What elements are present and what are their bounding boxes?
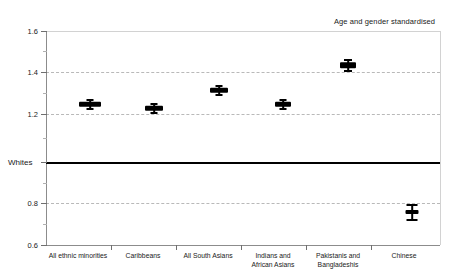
data-point-all-ethnic-minorities [78, 104, 102, 105]
error-bar-cap-upper [280, 99, 287, 101]
ytick-minor-1-3 [43, 93, 47, 94]
ylabel-0-6: 0.6 [28, 241, 38, 250]
data-point-caribbeans [143, 108, 165, 109]
marker-box [210, 88, 228, 93]
ytick-1-2 [41, 114, 47, 115]
xsep-4 [306, 245, 307, 250]
chart-annotation: Age and gender standardised [334, 17, 435, 26]
ytick-1-6 [41, 31, 47, 32]
error-bar-cap-upper [344, 59, 352, 61]
ytick-whites [41, 162, 47, 163]
xsep-5 [371, 245, 372, 250]
xsep-3 [241, 245, 242, 250]
ylabel-whites: Whites [8, 158, 32, 167]
marker-box [275, 102, 291, 107]
ytick-0-6 [41, 245, 47, 246]
gridline-0-8 [46, 203, 440, 204]
marker-box [406, 210, 419, 214]
ytick-minor-1-5 [43, 51, 47, 52]
axis-bottom-line [46, 245, 440, 246]
data-point-chinese [404, 212, 420, 213]
xlabel-chinese: Chinese [359, 252, 449, 261]
chart-container: Age and gender standardised 1.6 1.4 1.2 … [0, 0, 453, 273]
ytick-minor-0-7 [43, 224, 47, 225]
axis-right-line [440, 31, 441, 245]
data-point-all-south-asians [208, 90, 230, 91]
marker-box [145, 106, 163, 111]
ylabel-1-4: 1.4 [28, 68, 38, 77]
error-bar-cap-lower [407, 219, 418, 221]
error-bar-cap-lower [151, 112, 158, 114]
ytick-1-4 [41, 72, 47, 73]
axis-top-line [46, 31, 440, 32]
error-bar-cap-upper [151, 103, 158, 105]
error-bar-cap-lower [216, 94, 223, 96]
data-point-pakistanis-bangladeshis [338, 65, 358, 66]
error-bar-cap-upper [407, 204, 418, 206]
error-bar-cap-upper [216, 85, 223, 87]
ytick-minor-0-9 [43, 183, 47, 184]
error-bar-cap-lower [344, 70, 352, 72]
data-point-indians-african-asians [273, 104, 293, 105]
error-bar-cap-upper [87, 99, 94, 101]
error-bar-cap-lower [87, 108, 94, 110]
ytick-minor-1-1 [43, 138, 47, 139]
marker-box [79, 102, 101, 107]
ylabel-1-2: 1.2 [28, 110, 38, 119]
gridline-1-2 [46, 114, 440, 115]
marker-box [340, 62, 356, 68]
gridline-1-4 [46, 72, 440, 73]
xsep-2 [176, 245, 177, 250]
whites-reference-line [46, 162, 440, 164]
ylabel-0-8: 0.8 [28, 199, 38, 208]
ylabel-1-6: 1.6 [28, 27, 38, 36]
error-bar-cap-lower [280, 108, 287, 110]
xsep-1 [111, 245, 112, 250]
ytick-0-8 [41, 203, 47, 204]
